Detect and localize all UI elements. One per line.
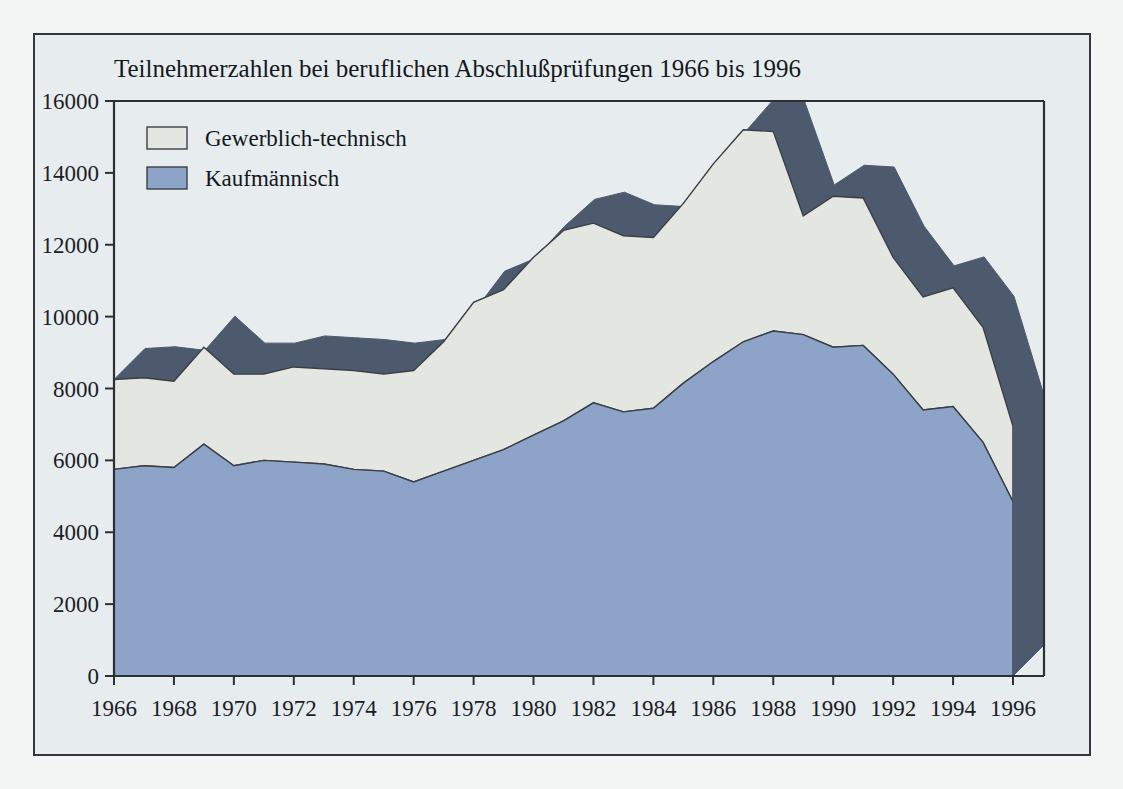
legend-label-gewerblich-technisch: Gewerblich-technisch bbox=[205, 126, 407, 151]
x-tick-label-1974: 1974 bbox=[331, 696, 378, 721]
y-tick-label-4000: 4000 bbox=[53, 520, 99, 545]
right-side-face bbox=[1013, 395, 1044, 676]
area-chart: Teilnehmerzahlen bei beruflichen Abschlu… bbox=[35, 35, 1089, 754]
legend-label-kaufmaennisch: Kaufmännisch bbox=[205, 166, 340, 191]
chart-legend: Gewerblich-technischKaufmännisch bbox=[147, 126, 407, 191]
y-tick-label-10000: 10000 bbox=[42, 305, 100, 330]
x-tick-label-1982: 1982 bbox=[570, 696, 616, 721]
x-tick-label-1984: 1984 bbox=[630, 696, 677, 721]
x-tick-label-1986: 1986 bbox=[690, 696, 736, 721]
x-tick-label-1992: 1992 bbox=[870, 696, 916, 721]
x-tick-label-1980: 1980 bbox=[511, 696, 557, 721]
y-tick-label-2000: 2000 bbox=[53, 592, 99, 617]
y-tick-label-16000: 16000 bbox=[42, 89, 100, 114]
x-tick-label-1988: 1988 bbox=[750, 696, 796, 721]
figure-frame: Teilnehmerzahlen bei beruflichen Abschlu… bbox=[33, 33, 1091, 756]
y-tick-label-12000: 12000 bbox=[42, 233, 100, 258]
legend-swatch-gewerblich-technisch bbox=[147, 127, 187, 149]
side-face-1996 bbox=[1013, 395, 1044, 676]
legend-swatch-kaufmaennisch bbox=[147, 167, 187, 189]
x-tick-label-1976: 1976 bbox=[391, 696, 437, 721]
y-tick-label-8000: 8000 bbox=[53, 377, 99, 402]
x-tick-label-1978: 1978 bbox=[451, 696, 497, 721]
chart-title: Teilnehmerzahlen bei beruflichen Abschlu… bbox=[114, 55, 801, 82]
x-tick-label-1994: 1994 bbox=[930, 696, 977, 721]
x-tick-label-1970: 1970 bbox=[211, 696, 257, 721]
x-tick-label-1996: 1996 bbox=[990, 696, 1036, 721]
x-tick-label-1972: 1972 bbox=[271, 696, 317, 721]
x-tick-label-1990: 1990 bbox=[810, 696, 856, 721]
y-tick-label-6000: 6000 bbox=[53, 448, 99, 473]
x-tick-label-1966: 1966 bbox=[91, 696, 137, 721]
y-tick-label-0: 0 bbox=[88, 664, 100, 689]
y-tick-label-14000: 14000 bbox=[42, 161, 100, 186]
figure-page: Teilnehmerzahlen bei beruflichen Abschlu… bbox=[0, 0, 1123, 789]
x-tick-label-1968: 1968 bbox=[151, 696, 197, 721]
